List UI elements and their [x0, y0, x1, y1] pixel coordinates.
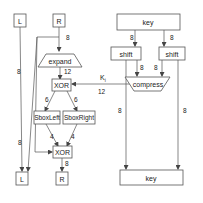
node-L-out: L: [16, 172, 28, 185]
label-compress-to-xor: 12: [98, 88, 106, 95]
label-L-to-xor: 8: [17, 68, 21, 75]
label-xor-to-R-out: 8: [65, 160, 69, 167]
node-shift-left-label: shift: [120, 51, 133, 58]
label-sbox-right-to-xor: 4: [71, 133, 75, 140]
node-sbox-left-label: SboxLeft: [34, 114, 60, 121]
label-shift-right-to-compress: 8: [154, 64, 158, 71]
node-L-out-label: L: [20, 176, 24, 183]
node-expand: expand: [38, 54, 82, 67]
label-xor-to-sbox-right: 6: [74, 96, 78, 103]
label-shift-right-to-key-out: 8: [183, 107, 187, 114]
label-expand-to-xor: 12: [64, 68, 72, 75]
node-L-in-label: L: [18, 18, 22, 25]
node-R-in: R: [53, 14, 65, 27]
node-key-out: key: [120, 170, 183, 185]
node-key-out-label: key: [146, 175, 157, 183]
node-R-out-label: R: [59, 176, 64, 183]
node-shift-left: shift: [111, 47, 141, 60]
node-R-in-label: R: [56, 18, 61, 25]
node-xor-bottom: XOR: [53, 146, 72, 158]
label-R-to-expand: 8: [66, 34, 70, 41]
node-xor-top: XOR: [52, 79, 71, 91]
node-xor-bottom-label: XOR: [55, 149, 70, 156]
node-compress-label: compress: [133, 81, 164, 89]
node-key-in: key: [117, 14, 180, 30]
label-ki: Ki: [100, 74, 106, 83]
node-xor-top-label: XOR: [54, 82, 69, 89]
edge-L-in-to-xor-bottom: [20, 27, 22, 171]
node-sbox-right-label: SboxRight: [64, 114, 94, 122]
node-R-out: R: [56, 172, 68, 185]
label-key-to-shift-left: 8: [130, 34, 134, 41]
node-shift-right: shift: [159, 47, 185, 60]
label-shift-left-to-compress: 8: [140, 64, 144, 71]
label-key-to-shift-right: 8: [170, 34, 174, 41]
node-sbox-right: SboxRight: [63, 111, 95, 124]
node-shift-right-label: shift: [166, 51, 179, 58]
node-sbox-left: SboxLeft: [34, 111, 60, 124]
label-shift-left-to-key-out: 8: [118, 107, 122, 114]
label-sbox-left-to-xor: 4: [50, 133, 54, 140]
node-key-in-label: key: [143, 19, 154, 27]
node-L-in: L: [14, 14, 26, 27]
label-xor-to-sbox-left: 6: [45, 96, 49, 103]
des-round-diagram: L R key expand shift shift compress XOR …: [0, 0, 203, 203]
node-compress: compress: [125, 77, 170, 91]
label-R-to-L-out: 8: [18, 139, 22, 146]
node-expand-label: expand: [49, 58, 72, 66]
